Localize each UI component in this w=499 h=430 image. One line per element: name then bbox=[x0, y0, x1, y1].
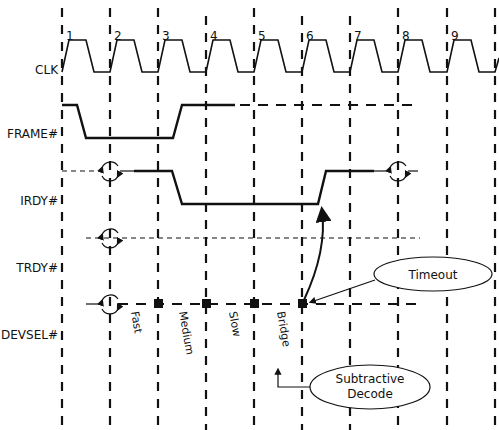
subtractive-label-line2: Decode bbox=[347, 387, 393, 401]
svg-text:7: 7 bbox=[354, 29, 362, 43]
signal-label-clk: CLK bbox=[35, 63, 59, 77]
frame-waveform bbox=[62, 105, 235, 138]
label-fast: Fast bbox=[128, 310, 145, 335]
clk-waveform bbox=[62, 40, 499, 72]
svg-text:3: 3 bbox=[162, 29, 170, 43]
bridge-to-irdy-arrow bbox=[304, 210, 323, 300]
svg-text:8: 8 bbox=[402, 29, 410, 43]
label-bridge: Bridge bbox=[274, 310, 293, 348]
label-slow: Slow bbox=[226, 310, 243, 338]
svg-text:2: 2 bbox=[114, 29, 122, 43]
timeout-pointer bbox=[311, 280, 375, 302]
svg-text:4: 4 bbox=[210, 29, 218, 43]
signal-label-frame: FRAME# bbox=[7, 127, 58, 141]
svg-text:1: 1 bbox=[66, 29, 74, 43]
signal-label-devsel: DEVSEL# bbox=[1, 328, 58, 342]
svg-text:9: 9 bbox=[451, 29, 459, 43]
subtractive-label-line1: Subtractive bbox=[336, 372, 405, 386]
svg-text:6: 6 bbox=[306, 29, 314, 43]
signal-label-trdy: TRDY# bbox=[15, 261, 58, 275]
label-medium: Medium bbox=[176, 310, 196, 356]
subtractive-pointer bbox=[278, 370, 310, 387]
svg-text:5: 5 bbox=[258, 29, 266, 43]
timing-diagram: CLK FRAME# IRDY# TRDY# DEVSEL# 1 2 3 4 5… bbox=[0, 0, 499, 430]
clock-cycle-numbers: 1 2 3 4 5 6 7 8 9 bbox=[66, 29, 459, 43]
timeout-label: Timeout bbox=[407, 268, 457, 282]
signal-label-irdy: IRDY# bbox=[20, 194, 58, 208]
